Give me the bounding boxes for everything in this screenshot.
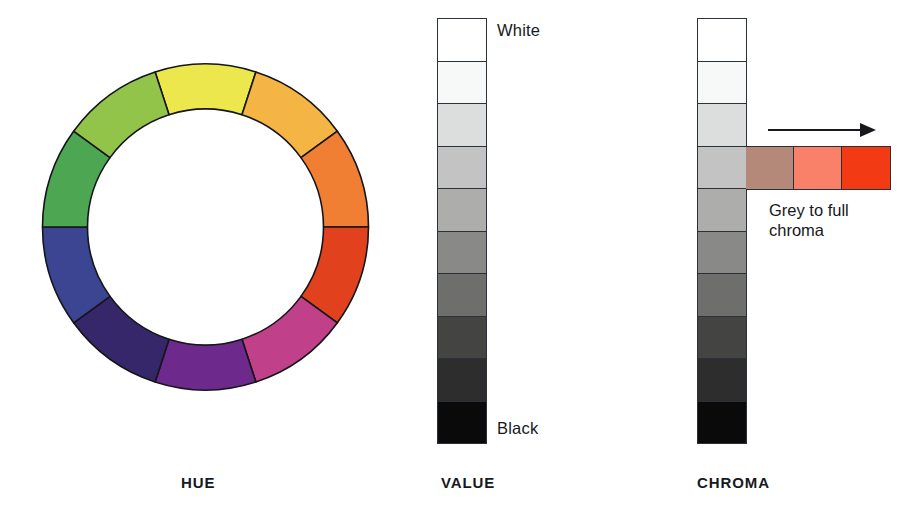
value-axis-label: VALUE <box>441 474 495 491</box>
hue-wheel <box>38 55 373 405</box>
value-step-step-3[interactable] <box>438 104 486 147</box>
chroma-step-step-10-black[interactable] <box>698 402 746 444</box>
hue-segment-yellow[interactable] <box>155 64 256 115</box>
chroma-swatch-low-chroma[interactable] <box>746 147 794 189</box>
value-step-step-10-black[interactable] <box>438 402 486 444</box>
value-step-step-4[interactable] <box>438 147 486 190</box>
value-step-step-8[interactable] <box>438 317 486 360</box>
chroma-step-step-7[interactable] <box>698 274 746 317</box>
value-white-label: White <box>497 21 540 40</box>
value-step-step-6[interactable] <box>438 232 486 275</box>
chroma-step-step-2[interactable] <box>698 62 746 105</box>
value-step-step-1-white[interactable] <box>438 19 486 62</box>
hue-segment-group <box>43 64 369 390</box>
chroma-strip <box>746 146 891 190</box>
chroma-swatch-mid-chroma[interactable] <box>794 147 842 189</box>
chroma-step-step-3[interactable] <box>698 104 746 147</box>
chroma-step-step-4[interactable] <box>698 147 746 190</box>
chroma-swatch-full-chroma[interactable] <box>842 147 890 189</box>
chroma-value-scale <box>697 18 747 444</box>
chroma-step-step-9[interactable] <box>698 359 746 402</box>
hue-wheel-svg <box>38 55 373 405</box>
chroma-step-step-5[interactable] <box>698 189 746 232</box>
chroma-step-step-8[interactable] <box>698 317 746 360</box>
value-step-step-9[interactable] <box>438 359 486 402</box>
chroma-axis-label: CHROMA <box>697 474 770 491</box>
figure-canvas: HUE White Black VALUE Grey to full chrom… <box>0 0 897 516</box>
value-step-step-5[interactable] <box>438 189 486 232</box>
right-arrow-icon <box>768 119 876 141</box>
chroma-step-step-6[interactable] <box>698 232 746 275</box>
chroma-caption: Grey to full chroma <box>769 200 897 240</box>
value-scale <box>437 18 487 444</box>
chroma-step-step-1-white[interactable] <box>698 19 746 62</box>
value-black-label: Black <box>497 419 538 438</box>
hue-axis-label: HUE <box>181 474 215 491</box>
value-step-step-7[interactable] <box>438 274 486 317</box>
value-step-step-2[interactable] <box>438 62 486 105</box>
hue-segment-violet[interactable] <box>155 339 256 390</box>
